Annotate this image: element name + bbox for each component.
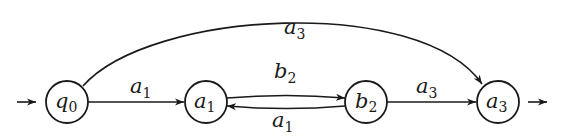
transition-label: b2 (274, 59, 296, 86)
transition-label: a1 (130, 74, 151, 101)
transition-b2-a1: a1 (227, 106, 345, 135)
transition-label: a3 (284, 15, 305, 42)
transition-b2-a3: a3 (387, 74, 476, 102)
state-q0: q0 (46, 81, 88, 123)
transition-label: a3 (416, 74, 437, 101)
state-a1: a1 (185, 81, 227, 123)
transition-label: a1 (272, 108, 293, 135)
transition-a1-b2: b2 (227, 59, 345, 98)
transition-q0-a1: a1 (88, 74, 184, 102)
state-b2: b2 (345, 81, 387, 123)
state-a3: a3 (477, 81, 519, 123)
automaton-diagram: a1 b2 a1 a3 a3 q0 a1 b2 a3 (0, 0, 564, 136)
